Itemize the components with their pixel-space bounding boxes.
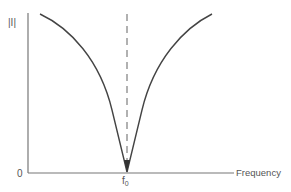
x-tick-f0: f0 bbox=[122, 175, 129, 187]
x-axis-label: Frequency bbox=[236, 167, 281, 178]
y-axis-label: |I| bbox=[8, 17, 16, 28]
response-curve-left bbox=[40, 14, 127, 172]
origin-label: 0 bbox=[17, 168, 23, 179]
x-tick-f0-sub: 0 bbox=[125, 180, 129, 187]
notch-response-chart: |I| 0 f0 Frequency bbox=[0, 0, 291, 192]
response-curve-right bbox=[127, 14, 212, 172]
